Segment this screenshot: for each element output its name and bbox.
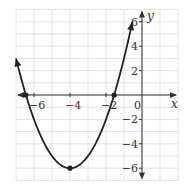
y-axis-arrow-down-icon — [139, 172, 145, 179]
x-tick-label: 0 — [134, 99, 141, 112]
x-intercept-right-point — [112, 92, 117, 97]
y-tick-label: −2 — [122, 113, 138, 126]
vertex-point — [67, 166, 72, 171]
y-tick-label: 4 — [131, 40, 138, 53]
y-tick-label: −6 — [122, 162, 138, 175]
x-tick-label: −4 — [65, 99, 81, 112]
graph-plot: −6−4−20642−2−4−6 x y — [0, 0, 187, 187]
y-tick-label: 2 — [131, 65, 138, 78]
x-axis-label: x — [171, 97, 178, 111]
y-axis-label: y — [146, 9, 154, 23]
y-axis-arrow-up-icon — [139, 11, 145, 18]
y-tick-label: −4 — [122, 138, 138, 151]
curve-arrow-icons — [15, 22, 134, 67]
x-axis-arrow-left-icon — [17, 92, 24, 98]
x-intercept-left-point — [23, 92, 28, 97]
axes — [17, 11, 177, 180]
